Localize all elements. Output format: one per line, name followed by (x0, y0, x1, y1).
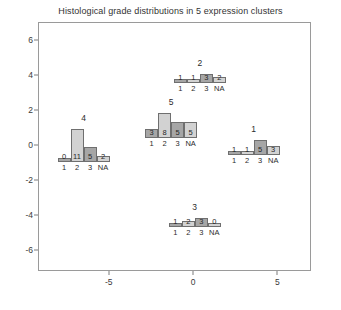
cluster-group: 401152123NA (58, 113, 110, 174)
bar[interactable]: 8 (158, 113, 171, 137)
bar-column[interactable]: 3 (200, 74, 213, 83)
bar-value-label: 2 (98, 152, 109, 161)
category-label: 3 (254, 156, 267, 166)
x-tick-mark (108, 271, 109, 275)
bar-column[interactable]: 1 (187, 74, 200, 83)
bar-value-label: 1 (242, 145, 253, 154)
bar-column[interactable]: 5 (171, 113, 184, 137)
bar-value-label: 11 (72, 152, 83, 161)
y-tick-mark (34, 39, 38, 40)
x-tick-mark (277, 271, 278, 275)
bar[interactable]: 1 (174, 79, 187, 83)
bar-column[interactable]: 5 (184, 113, 197, 137)
category-label: NA (208, 228, 221, 238)
bar-column[interactable]: 3 (267, 140, 280, 155)
bar[interactable]: 5 (171, 122, 184, 137)
bar-column[interactable]: 11 (71, 129, 84, 163)
y-tick-label: -6 (25, 245, 33, 255)
category-label-row: 123NA (228, 156, 280, 166)
bar-column[interactable]: 3 (145, 113, 158, 137)
bar-value-label: 2 (183, 217, 194, 226)
bar[interactable]: 3 (267, 146, 280, 155)
cluster-label: 1 (251, 124, 256, 134)
plot-area: 6420-2-4-6-505401152123NA53855123NA21132… (38, 22, 311, 271)
cluster-label: 4 (81, 113, 86, 123)
bar[interactable]: 3 (195, 218, 208, 227)
category-label: NA (267, 156, 280, 166)
cluster-label: 3 (192, 202, 197, 212)
category-label: 3 (84, 163, 97, 173)
bar-group: 1153 (228, 140, 280, 155)
bar-column[interactable]: 8 (158, 113, 171, 137)
bar-value-label: 1 (175, 73, 186, 82)
y-tick-label: 6 (28, 35, 33, 45)
bar-column[interactable]: 0 (208, 218, 221, 227)
bar-group: 01152 (58, 129, 110, 163)
y-tick-mark (34, 109, 38, 110)
bar-value-label: 5 (255, 145, 266, 154)
bar-value-label: 0 (209, 217, 220, 226)
category-label-row: 123NA (174, 84, 226, 94)
cluster-group: 11153123NA (228, 124, 280, 166)
bar[interactable]: 1 (187, 79, 200, 83)
bar[interactable]: 5 (254, 140, 267, 155)
bar-column[interactable]: 1 (241, 140, 254, 155)
category-label: 3 (171, 139, 184, 149)
bar-column[interactable]: 1 (228, 140, 241, 155)
x-tick-mark (193, 271, 194, 275)
bar-column[interactable]: 2 (182, 218, 195, 227)
bar-column[interactable]: 5 (84, 129, 97, 163)
bar-value-label: 1 (170, 217, 181, 226)
bar-column[interactable]: 1 (174, 74, 187, 83)
cluster-label: 2 (197, 58, 202, 68)
bar-value-label: 3 (201, 73, 212, 82)
bar-value-label: 0 (59, 152, 70, 161)
bar-value-label: 8 (159, 128, 170, 137)
bar-column[interactable]: 0 (58, 129, 71, 163)
y-tick-mark (34, 74, 38, 75)
bar[interactable]: 0 (208, 223, 221, 227)
bar[interactable]: 5 (184, 122, 197, 137)
bar[interactable]: 2 (213, 77, 226, 83)
category-label: 2 (158, 139, 171, 149)
y-tick-label: -2 (25, 175, 33, 185)
bar-column[interactable]: 2 (213, 74, 226, 83)
y-tick-label: 2 (28, 105, 33, 115)
bar[interactable]: 3 (145, 129, 158, 138)
category-label: NA (213, 84, 226, 94)
bar-group: 3855 (145, 113, 197, 137)
y-tick-label: 4 (28, 70, 33, 80)
bar-column[interactable]: 1 (169, 218, 182, 227)
x-tick-label: 0 (191, 277, 196, 287)
chart-title: Histological grade distributions in 5 ex… (0, 6, 341, 16)
category-label-row: 123NA (169, 228, 221, 238)
bar[interactable]: 1 (241, 151, 254, 155)
category-label: NA (184, 139, 197, 149)
bar[interactable]: 11 (71, 129, 84, 163)
bar[interactable]: 0 (58, 158, 71, 162)
bar[interactable]: 5 (84, 147, 97, 162)
y-tick-label: 0 (28, 140, 33, 150)
cluster-label: 5 (169, 97, 174, 107)
category-label: 2 (241, 156, 254, 166)
bar-column[interactable]: 2 (97, 129, 110, 163)
bar-group: 1132 (174, 74, 226, 83)
bar-value-label: 5 (172, 128, 183, 137)
cluster-group: 21132123NA (174, 58, 226, 94)
bar-column[interactable]: 5 (254, 140, 267, 155)
bar-value-label: 5 (85, 152, 96, 161)
bar-value-label: 5 (185, 128, 196, 137)
bar[interactable]: 3 (200, 74, 213, 83)
bar[interactable]: 2 (97, 156, 110, 162)
bar-column[interactable]: 3 (195, 218, 208, 227)
bar-value-label: 1 (229, 145, 240, 154)
category-label: 2 (187, 84, 200, 94)
bar[interactable]: 1 (228, 151, 241, 155)
cluster-group: 31230123NA (169, 202, 221, 238)
bar[interactable]: 2 (182, 221, 195, 227)
bar[interactable]: 1 (169, 223, 182, 227)
category-label: 2 (182, 228, 195, 238)
bar-value-label: 3 (146, 128, 157, 137)
category-label: 1 (58, 163, 71, 173)
y-tick-mark (34, 144, 38, 145)
